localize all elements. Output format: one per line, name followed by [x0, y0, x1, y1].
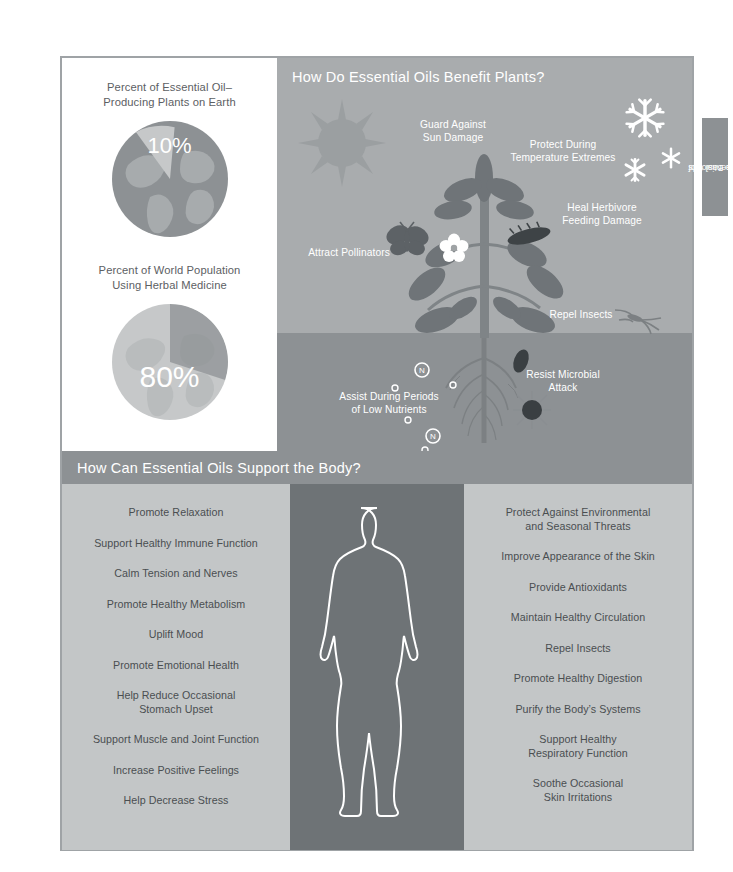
- label-assist-during-low-nutrients: Assist During Periods of Low Nutrients: [325, 390, 453, 416]
- label-heal-line2: Feeding Damage: [547, 214, 657, 227]
- label-temp-line2: Temperature Extremes: [505, 151, 621, 164]
- benefit-left-8: Increase Positive Feelings: [74, 764, 278, 778]
- benefit-left-6-line-1: Stomach Upset: [74, 703, 278, 717]
- label-repel-insects: Repel Insects: [535, 308, 627, 321]
- side-tab-the-basics-of-essential-oils[interactable]: The Basics of Essential Oils: [702, 118, 728, 216]
- stat-title-line2: Producing Plants on Earth: [62, 95, 277, 110]
- benefit-left-5-line-0: Promote Emotional Health: [74, 659, 278, 673]
- globe-chart-plants: 10%: [110, 119, 230, 239]
- sun-icon: [298, 99, 386, 187]
- benefit-left-0-line-0: Promote Relaxation: [74, 506, 278, 520]
- globe-percent-label-10: 10%: [110, 133, 230, 159]
- benefit-left-3-line-0: Promote Healthy Metabolism: [74, 598, 278, 612]
- label-microbial-line2: Attack: [509, 381, 617, 394]
- benefit-right-4: Repel Insects: [476, 642, 680, 656]
- side-tab-label: The Basics of Essential Oils: [710, 121, 721, 213]
- label-temp-line1: Protect During: [505, 138, 621, 151]
- benefit-left-2: Calm Tension and Nerves: [74, 567, 278, 581]
- body-title-bar: How Can Essential Oils Support the Body?: [62, 451, 692, 484]
- label-guard-against-sun-damage: Guard Against Sun Damage: [400, 118, 506, 144]
- benefit-left-4-line-0: Uplift Mood: [74, 628, 278, 642]
- benefit-left-9: Help Decrease Stress: [74, 794, 278, 808]
- benefit-left-7-line-0: Support Muscle and Joint Function: [74, 733, 278, 747]
- benefit-right-0-line-1: and Seasonal Threats: [476, 520, 680, 534]
- stat-title-line1-b: Percent of World Population: [62, 263, 277, 278]
- benefit-left-2-line-0: Calm Tension and Nerves: [74, 567, 278, 581]
- benefit-left-6: Help Reduce OccasionalStomach Upset: [74, 689, 278, 716]
- page-sheet: Percent of Essential Oil– Producing Plan…: [12, 23, 721, 849]
- benefit-right-8: Soothe OccasionalSkin Irritations: [476, 777, 680, 804]
- label-nutrients-line2: of Low Nutrients: [325, 403, 453, 416]
- benefit-left-8-line-0: Increase Positive Feelings: [74, 764, 278, 778]
- stat-title-line1: Percent of Essential Oil–: [62, 80, 277, 95]
- label-heal-line1: Heal Herbivore: [547, 201, 657, 214]
- benefit-right-0-line-0: Protect Against Environmental: [476, 506, 680, 520]
- root-system: [446, 338, 518, 443]
- benefit-right-0: Protect Against Environmentaland Seasona…: [476, 506, 680, 533]
- benefit-left-1-line-0: Support Healthy Immune Function: [74, 537, 278, 551]
- benefit-right-3-line-0: Maintain Healthy Circulation: [476, 611, 680, 625]
- benefit-left-4: Uplift Mood: [74, 628, 278, 642]
- svg-text:N: N: [419, 366, 425, 375]
- benefit-right-3: Maintain Healthy Circulation: [476, 611, 680, 625]
- label-sun-line2: Sun Damage: [400, 131, 506, 144]
- label-nutrients-line1: Assist During Periods: [325, 390, 453, 403]
- benefits-column-left: Promote RelaxationSupport Healthy Immune…: [62, 484, 290, 850]
- benefit-right-7: Support HealthyRespiratory Function: [476, 733, 680, 760]
- benefit-left-6-line-0: Help Reduce Occasional: [74, 689, 278, 703]
- benefit-right-5-line-0: Promote Healthy Digestion: [476, 672, 680, 686]
- infographic: Percent of Essential Oil– Producing Plan…: [60, 56, 694, 851]
- label-attract-pollinators: Attract Pollinators: [285, 246, 413, 259]
- benefit-right-6: Purify the Body’s Systems: [476, 703, 680, 717]
- plants-panel: How Do Essential Oils Benefit Plants?: [277, 58, 692, 451]
- body-columns: Promote RelaxationSupport Healthy Immune…: [62, 484, 692, 850]
- benefit-right-8-line-1: Skin Irritations: [476, 791, 680, 805]
- benefit-right-5: Promote Healthy Digestion: [476, 672, 680, 686]
- benefits-column-right: Protect Against Environmentaland Seasona…: [464, 484, 692, 850]
- statistics-panel: Percent of Essential Oil– Producing Plan…: [62, 58, 277, 451]
- benefit-left-1: Support Healthy Immune Function: [74, 537, 278, 551]
- label-protect-during-temperature-extremes: Protect During Temperature Extremes: [505, 138, 621, 164]
- label-microbial-line1: Resist Microbial: [509, 368, 617, 381]
- stat-title-plants: Percent of Essential Oil– Producing Plan…: [62, 80, 277, 110]
- top-row: Percent of Essential Oil– Producing Plan…: [62, 58, 692, 451]
- benefit-left-5: Promote Emotional Health: [74, 659, 278, 673]
- stat-block-plants: Percent of Essential Oil– Producing Plan…: [62, 80, 277, 239]
- microbe-icon: [513, 391, 551, 429]
- stat-title-line2-b: Using Herbal Medicine: [62, 278, 277, 293]
- stat-title-population: Percent of World Population Using Herbal…: [62, 263, 277, 293]
- benefit-right-1-line-0: Improve Appearance of the Skin: [476, 550, 680, 564]
- page-surface: Percent of Essential Oil– Producing Plan…: [0, 0, 733, 872]
- benefit-right-4-line-0: Repel Insects: [476, 642, 680, 656]
- benefit-left-0: Promote Relaxation: [74, 506, 278, 520]
- body-benefits-section: How Can Essential Oils Support the Body?…: [62, 451, 692, 850]
- body-section-title: How Can Essential Oils Support the Body?: [77, 460, 361, 476]
- human-figure-panel: [290, 484, 464, 850]
- globe-chart-population: 80%: [110, 302, 230, 422]
- benefit-right-7-line-1: Respiratory Function: [476, 747, 680, 761]
- benefit-left-3: Promote Healthy Metabolism: [74, 598, 278, 612]
- globe-percent-label-80: 80%: [110, 360, 230, 394]
- label-heal-herbivore-feeding-damage: Heal Herbivore Feeding Damage: [547, 201, 657, 227]
- benefit-right-2-line-0: Provide Antioxidants: [476, 581, 680, 595]
- benefit-right-1: Improve Appearance of the Skin: [476, 550, 680, 564]
- flower-icon: [440, 234, 469, 263]
- benefit-left-9-line-0: Help Decrease Stress: [74, 794, 278, 808]
- benefit-right-7-line-0: Support Healthy: [476, 733, 680, 747]
- benefit-right-8-line-0: Soothe Occasional: [476, 777, 680, 791]
- label-resist-microbial-attack: Resist Microbial Attack: [509, 368, 617, 394]
- benefit-right-2: Provide Antioxidants: [476, 581, 680, 595]
- label-sun-line1: Guard Against: [400, 118, 506, 131]
- benefit-left-7: Support Muscle and Joint Function: [74, 733, 278, 747]
- svg-text:N: N: [430, 432, 436, 441]
- human-body-outline-icon: [302, 500, 452, 830]
- stat-block-population: Percent of World Population Using Herbal…: [62, 263, 277, 422]
- side-tab-line2: Essential Oils: [669, 162, 733, 173]
- benefit-right-6-line-0: Purify the Body’s Systems: [476, 703, 680, 717]
